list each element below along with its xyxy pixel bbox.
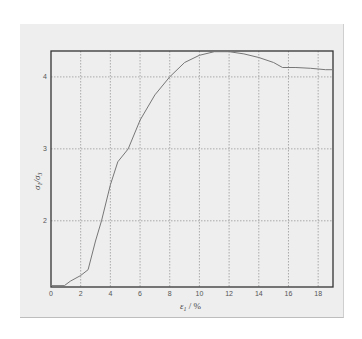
data-line: [51, 52, 333, 286]
x-tick-label: 12: [225, 290, 233, 297]
x-tick-label: 10: [196, 290, 204, 297]
x-axis-label: ε1 / %: [180, 301, 202, 312]
y-tick-label: 3: [43, 145, 47, 152]
x-tick-label: 6: [138, 290, 142, 297]
grid-lines: [51, 51, 333, 287]
y-tick-label: 2: [43, 217, 47, 224]
line-chart: 024681012141618 234 ε1 / % σ1/σ3: [0, 0, 362, 339]
y-tick-label: 4: [43, 73, 47, 80]
x-tick-label: 2: [79, 290, 83, 297]
y-axis-ticks: 234: [43, 73, 47, 224]
y-axis-label: σ1/σ3: [32, 173, 43, 190]
x-tick-label: 4: [108, 290, 112, 297]
x-tick-label: 14: [255, 290, 263, 297]
plot-frame: [51, 51, 333, 287]
x-tick-label: 8: [168, 290, 172, 297]
x-axis-ticks: 024681012141618: [49, 290, 322, 297]
x-tick-label: 18: [314, 290, 322, 297]
x-tick-label: 16: [285, 290, 293, 297]
x-tick-label: 0: [49, 290, 53, 297]
